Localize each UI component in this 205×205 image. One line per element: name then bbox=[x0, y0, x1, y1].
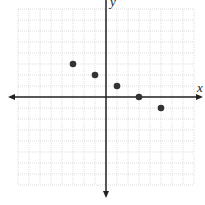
data-point bbox=[70, 61, 77, 68]
axes bbox=[8, 0, 203, 198]
coordinate-plane bbox=[0, 0, 205, 205]
data-point bbox=[92, 72, 99, 79]
y-axis-label: y bbox=[110, 0, 116, 8]
x-axis-label: x bbox=[197, 81, 203, 94]
data-point bbox=[158, 105, 165, 112]
data-point bbox=[136, 94, 143, 101]
x-axis-left-arrow-icon bbox=[8, 94, 15, 100]
data-point bbox=[114, 83, 121, 90]
y-axis-down-arrow-icon bbox=[103, 191, 109, 198]
